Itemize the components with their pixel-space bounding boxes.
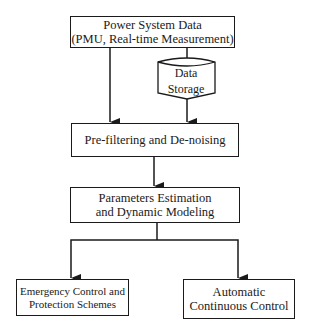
node-power-system-data: Power System Data (PMU, Real-time Measur…	[70, 16, 235, 48]
node-data-storage-label: Data Storage	[157, 66, 215, 97]
node-data-storage-line2: Storage	[157, 82, 215, 98]
node-automatic-control-line1: Automatic	[213, 285, 266, 299]
edge-params-to-emergency	[71, 240, 157, 278]
node-parameters-estimation-line1: Parameters Estimation	[99, 191, 212, 205]
node-emergency-control: Emergency Control and Protection Schemes	[16, 279, 129, 316]
node-automatic-control: Automatic Continuous Control	[183, 279, 295, 319]
node-data-storage-line1: Data	[157, 66, 215, 82]
node-prefiltering-line1: Pre-filtering and De-noising	[85, 133, 226, 147]
node-emergency-control-line1: Emergency Control and	[20, 285, 125, 298]
node-prefiltering: Pre-filtering and De-noising	[71, 123, 239, 157]
node-power-system-data-line1: Power System Data	[103, 18, 202, 32]
edge-params-to-automatic	[157, 240, 238, 278]
node-automatic-control-line2: Continuous Control	[190, 299, 289, 313]
node-parameters-estimation: Parameters Estimation and Dynamic Modeli…	[70, 187, 240, 223]
node-power-system-data-line2: (PMU, Real-time Measurement)	[71, 32, 233, 46]
node-emergency-control-line2: Protection Schemes	[29, 298, 116, 311]
node-parameters-estimation-line2: and Dynamic Modeling	[96, 205, 215, 219]
